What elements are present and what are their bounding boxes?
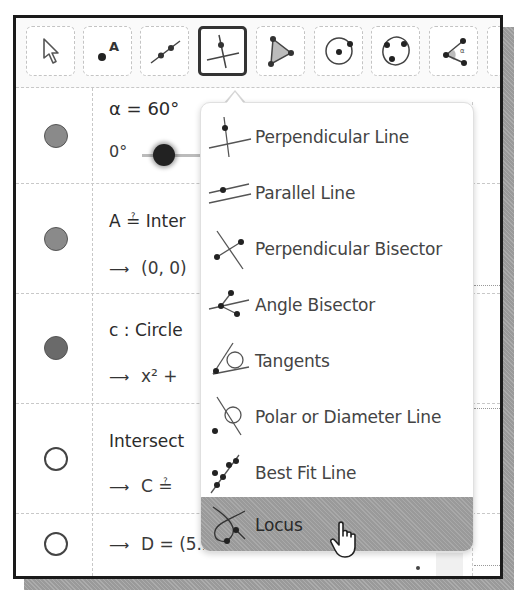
C-definition: Intersect — [109, 431, 184, 451]
best-fit-line-icon — [205, 449, 253, 497]
angle-icon: α — [436, 33, 472, 69]
perpendicular-bisector-icon — [205, 225, 253, 273]
geogebra-window: A α 360° ect (xAxis, yAxis) (A, 5.25) 27… — [13, 15, 503, 579]
alpha-slider-knob[interactable] — [153, 144, 175, 166]
tool-polygon[interactable] — [256, 26, 305, 76]
menu-item-perpendicular-bisector[interactable]: Perpendicular Bisector — [201, 221, 473, 276]
alpha-definition: α = 60° — [109, 98, 179, 119]
c-definition: c : Circle — [109, 320, 183, 340]
menu-item-tangents[interactable]: Tangents — [201, 333, 473, 388]
result-arrow-icon: ⟶ — [109, 261, 131, 277]
menu-item-polar-diameter-line[interactable]: Polar or Diameter Line — [201, 389, 473, 444]
result-arrow-icon: ⟶ — [109, 369, 131, 385]
menu-item-parallel-line[interactable]: Parallel Line — [201, 165, 473, 220]
tool-more[interactable] — [487, 26, 503, 76]
tool-point[interactable]: A — [83, 26, 132, 76]
A-value: ⟶(0, 0) — [109, 258, 187, 278]
visibility-toggle-C[interactable] — [44, 447, 68, 471]
polar-diameter-line-icon — [205, 393, 253, 441]
svg-text:A: A — [109, 39, 119, 54]
slider-min-label: 0° — [109, 142, 127, 161]
menu-item-angle-bisector[interactable]: Angle Bisector — [201, 277, 473, 332]
C-value: ⟶C ≟ — [109, 476, 173, 496]
tool-circle-three-points[interactable] — [371, 26, 420, 76]
c-value: ⟶x² + — [109, 366, 178, 386]
result-arrow-icon: ⟶ — [109, 479, 131, 495]
result-arrow-icon: ⟶ — [109, 537, 131, 553]
tool-line[interactable] — [140, 26, 189, 76]
visibility-toggle-D[interactable] — [44, 532, 68, 556]
visibility-toggle-A[interactable] — [44, 227, 68, 251]
tool-move[interactable] — [26, 26, 75, 76]
menu-item-best-fit-line[interactable]: Best Fit Line — [201, 445, 473, 500]
graph-point — [416, 566, 420, 570]
hand-pointer-cursor-icon — [329, 520, 363, 560]
line-through-points-icon — [147, 33, 183, 69]
locus-icon — [205, 501, 253, 549]
graph-shaded-cell — [436, 553, 463, 579]
tool-circle-center-point[interactable] — [314, 26, 363, 76]
menu-caret-fill — [225, 92, 245, 105]
graph-gridline — [474, 285, 503, 286]
tool-angle[interactable]: α — [429, 26, 478, 76]
perpendicular-line-icon — [205, 33, 241, 69]
tangents-icon — [205, 337, 253, 385]
graph-gridline — [474, 565, 503, 566]
svg-text:α: α — [460, 47, 465, 55]
visibility-toggle-alpha[interactable] — [44, 124, 68, 148]
angle-bisector-icon — [205, 281, 253, 329]
menu-item-perpendicular-line[interactable]: Perpendicular Line — [201, 109, 473, 164]
tool-submenu: Perpendicular Line Parallel Line Perpend… — [200, 102, 474, 552]
visibility-toggle-c[interactable] — [44, 336, 68, 360]
arrow-pointer-icon — [33, 33, 69, 69]
tool-perpendicular-line[interactable] — [198, 26, 247, 76]
circle-center-point-icon — [321, 33, 357, 69]
perpendicular-line-icon — [205, 113, 253, 161]
toolbar: A α — [16, 18, 500, 88]
parallel-line-icon — [205, 169, 253, 217]
polygon-icon — [263, 33, 299, 69]
A-definition: A ≟ Inter — [109, 211, 186, 231]
circle-three-points-icon — [378, 33, 414, 69]
graph-gridline — [474, 408, 503, 409]
point-icon: A — [90, 33, 126, 69]
